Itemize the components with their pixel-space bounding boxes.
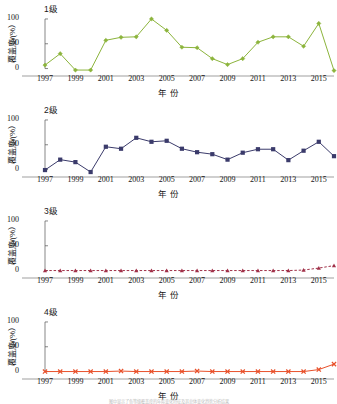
data-point-marker <box>256 147 260 151</box>
x-axis-tick-label: 2013 <box>280 276 296 285</box>
x-axis-tick-label: 2005 <box>159 276 175 285</box>
data-point-marker <box>89 68 93 72</box>
plot-wrapper: 050100 <box>22 12 334 74</box>
series-line <box>45 138 334 172</box>
data-point-marker <box>225 62 229 66</box>
x-axis-ticks: 1997199920012003200520072009201120132015 <box>45 74 334 86</box>
x-axis-tick-label: 2005 <box>159 175 175 184</box>
x-axis-tick-label: 2011 <box>250 377 266 386</box>
data-point-marker <box>301 149 305 153</box>
plot-area <box>45 315 334 377</box>
x-axis-tick-label: 2015 <box>311 276 327 285</box>
x-axis-tick-label: 2001 <box>98 175 114 184</box>
data-point-marker <box>271 35 275 39</box>
series-line <box>45 364 334 371</box>
data-point-marker <box>317 140 321 144</box>
data-point-marker <box>332 264 336 268</box>
x-axis-tick-label: 2013 <box>280 74 296 83</box>
plot-area <box>45 113 334 175</box>
x-axis-tick-label: 2011 <box>250 276 266 285</box>
data-point-marker <box>241 151 245 155</box>
x-axis-tick-label: 2015 <box>311 377 327 386</box>
data-point-marker <box>89 170 93 174</box>
y-axis-tick-label: 0 <box>15 163 22 172</box>
data-point-marker <box>210 152 214 156</box>
series-markers <box>43 136 336 174</box>
data-point-marker <box>332 154 336 158</box>
x-axis-tick-label: 2011 <box>250 175 266 184</box>
series-markers <box>43 17 336 73</box>
x-axis-tick-label: 2013 <box>280 377 296 386</box>
x-axis-ticks: 1997199920012003200520072009201120132015 <box>45 377 334 389</box>
y-axis-tick-label: 50 <box>11 138 22 147</box>
plot-wrapper: 050100 <box>22 315 334 377</box>
x-axis-tick-label: 2009 <box>220 74 236 83</box>
chart-panel: 1级覆盖度/(%）0501001997199920012003200520072… <box>0 0 337 101</box>
x-axis-tick-label: 2003 <box>128 74 144 83</box>
data-point-marker <box>149 140 153 144</box>
plot-wrapper: 050100 <box>22 113 334 175</box>
x-axis-tick-label: 2001 <box>98 377 114 386</box>
x-axis-tick-label: 2009 <box>220 377 236 386</box>
y-axis-tick-label: 0 <box>15 365 22 374</box>
x-axis-tick-label: 2003 <box>128 377 144 386</box>
x-axis-tick-label: 2009 <box>220 175 236 184</box>
data-point-marker <box>104 38 108 42</box>
data-point-marker <box>104 145 108 149</box>
y-axis-tick-label: 100 <box>7 113 22 122</box>
y-axis-tick-label: 50 <box>11 37 22 46</box>
chart-panel: 3级覆盖度/(%）0501001997199920012003200520072… <box>0 202 337 303</box>
data-point-marker <box>119 35 123 39</box>
x-axis-tick-label: 2015 <box>311 74 327 83</box>
x-axis-tick-label: 1999 <box>67 377 83 386</box>
x-axis-tick-label: 1997 <box>37 175 53 184</box>
data-point-marker <box>119 147 123 151</box>
plot-wrapper: 050100 <box>22 214 334 276</box>
data-point-marker <box>165 268 169 272</box>
chart-panel: 2级覆盖度/(%）0501001997199920012003200520072… <box>0 101 337 202</box>
series-line <box>45 19 334 71</box>
figure-caption: 图中显示了各等级覆盖度的年际变化特征及其总体变化趋势分析结果 <box>0 398 337 404</box>
plot-area <box>45 214 334 276</box>
data-point-marker <box>165 139 169 143</box>
y-axis-tick-label: 50 <box>11 239 22 248</box>
x-axis-ticks: 1997199920012003200520072009201120132015 <box>45 175 334 187</box>
x-axis-tick-label: 1997 <box>37 276 53 285</box>
data-point-marker <box>225 158 229 162</box>
plot-area <box>45 12 334 74</box>
x-axis-tick-label: 2007 <box>189 74 205 83</box>
data-point-marker <box>58 158 62 162</box>
x-axis-label: 年 份 <box>0 187 337 199</box>
data-point-marker <box>332 68 336 72</box>
x-axis-tick-label: 2003 <box>128 276 144 285</box>
x-axis-ticks: 1997199920012003200520072009201120132015 <box>45 276 334 288</box>
series-line <box>45 266 334 271</box>
y-axis-tick-label: 0 <box>15 264 22 273</box>
x-axis-tick-label: 2007 <box>189 175 205 184</box>
x-axis-tick-label: 2003 <box>128 175 144 184</box>
data-point-marker <box>134 136 138 140</box>
x-axis-tick-label: 2011 <box>250 74 266 83</box>
x-axis-tick-label: 2005 <box>159 74 175 83</box>
x-axis-tick-label: 1997 <box>37 74 53 83</box>
x-axis-tick-label: 2001 <box>98 74 114 83</box>
chart-panel: 4级覆盖度/(%）0501001997199920012003200520072… <box>0 303 337 404</box>
y-axis-tick-label: 50 <box>11 340 22 349</box>
data-point-marker <box>195 150 199 154</box>
x-axis-tick-label: 2001 <box>98 276 114 285</box>
x-axis-tick-label: 2007 <box>189 377 205 386</box>
data-point-marker <box>271 147 275 151</box>
x-axis-tick-label: 2005 <box>159 377 175 386</box>
data-point-marker <box>43 168 47 172</box>
x-axis-tick-label: 2009 <box>220 276 236 285</box>
x-axis-tick-label: 2015 <box>311 175 327 184</box>
x-axis-tick-label: 1999 <box>67 74 83 83</box>
x-axis-tick-label: 1997 <box>37 377 53 386</box>
y-axis-tick-label: 100 <box>7 12 22 21</box>
data-point-marker <box>180 147 184 151</box>
x-axis-tick-label: 1999 <box>67 175 83 184</box>
x-axis-label: 年 份 <box>0 86 337 98</box>
x-axis-tick-label: 1999 <box>67 276 83 285</box>
x-axis-tick-label: 2007 <box>189 276 205 285</box>
y-axis-tick-label: 100 <box>7 214 22 223</box>
